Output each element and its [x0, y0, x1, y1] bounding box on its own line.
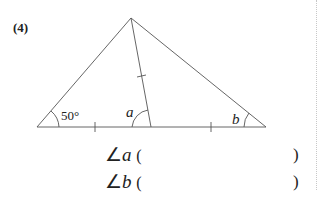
left-side: [37, 18, 131, 127]
arc-50: [51, 111, 59, 127]
given-angle-label: 50°: [61, 108, 79, 124]
margin-divider: [316, 0, 317, 190]
angle-b-label: b: [232, 111, 240, 128]
close-paren-b: ): [293, 172, 299, 192]
angle-a-label: a: [126, 104, 134, 121]
answer-row-b: ∠b (: [105, 170, 286, 193]
answer-var: a: [122, 144, 132, 165]
problem-number: (4): [13, 20, 28, 36]
answer-var: b: [122, 171, 132, 192]
cevian: [131, 18, 151, 127]
arc-a: [132, 110, 148, 127]
angle-symbol: ∠: [105, 144, 122, 165]
answer-row-a: ∠a (: [105, 143, 286, 166]
arc-b: [244, 113, 249, 127]
right-side: [131, 18, 266, 127]
angle-symbol: ∠: [105, 171, 122, 192]
close-paren-a: ): [293, 145, 299, 165]
open-paren: (: [136, 147, 141, 164]
open-paren: (: [136, 174, 141, 191]
